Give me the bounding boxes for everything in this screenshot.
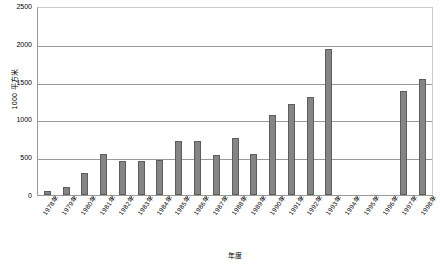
y-axis-tick-label: 2000 xyxy=(2,41,32,48)
x-axis-label-slot: 1978年 xyxy=(37,200,56,244)
bar-slot xyxy=(263,8,282,195)
bar-slot xyxy=(319,8,338,195)
x-axis-label-slot: 1991年 xyxy=(282,200,301,244)
bar xyxy=(100,154,107,195)
y-axis-tick-label: 0 xyxy=(2,192,32,199)
x-axis-label-slot: 1987年 xyxy=(207,200,226,244)
bar-slot xyxy=(151,8,170,195)
bar-slot xyxy=(395,8,414,195)
x-axis-label-slot: 1985年 xyxy=(169,200,188,244)
x-axis-label-slot: 1979年 xyxy=(56,200,75,244)
x-axis-label-slot: 1981年 xyxy=(94,200,113,244)
bar-slot xyxy=(413,8,432,195)
bar-slot xyxy=(132,8,151,195)
bar-slot xyxy=(207,8,226,195)
bar xyxy=(232,138,239,195)
bar xyxy=(250,154,257,195)
bar-slot xyxy=(113,8,132,195)
y-axis-tick-label: 1500 xyxy=(2,79,32,86)
bar xyxy=(400,91,407,195)
x-axis-label-slot: 1982年 xyxy=(112,200,131,244)
x-axis-label-slot: 1983年 xyxy=(131,200,150,244)
bar xyxy=(325,49,332,195)
bar-slot xyxy=(244,8,263,195)
bar-slot xyxy=(338,8,357,195)
bar-slot xyxy=(169,8,188,195)
bar xyxy=(119,161,126,195)
x-axis-label-slot: 1998年 xyxy=(414,200,433,244)
x-axis-label-slot: 1994年 xyxy=(339,200,358,244)
bar-slot xyxy=(301,8,320,195)
bar xyxy=(63,187,70,195)
bar xyxy=(288,104,295,195)
x-axis-label-slot: 1993年 xyxy=(320,200,339,244)
bar-slot xyxy=(188,8,207,195)
y-axis-tick-label: 500 xyxy=(2,154,32,161)
bar-chart: 1000 平方米 25002000150010005000 1978年1979年… xyxy=(0,0,440,268)
bar-slot xyxy=(357,8,376,195)
bar xyxy=(269,115,276,195)
plot-area xyxy=(37,7,433,196)
x-axis-tick-labels: 1978年1979年1980年1981年1982年1983年1984年1985年… xyxy=(37,200,433,244)
x-axis-label-slot: 1997年 xyxy=(395,200,414,244)
x-axis-label-slot: 1986年 xyxy=(188,200,207,244)
bar xyxy=(175,141,182,195)
y-axis-tick-label: 2500 xyxy=(2,3,32,10)
bar-slot xyxy=(376,8,395,195)
x-axis-label-slot: 1992年 xyxy=(301,200,320,244)
y-axis-tick-label: 1000 xyxy=(2,116,32,123)
bar xyxy=(156,160,163,195)
bar xyxy=(138,161,145,195)
x-axis-label-slot: 1988年 xyxy=(226,200,245,244)
bar xyxy=(307,97,314,195)
bar-slot xyxy=(226,8,245,195)
bar xyxy=(81,173,88,195)
bar-slot xyxy=(76,8,95,195)
bar-slot xyxy=(38,8,57,195)
bar-slot xyxy=(94,8,113,195)
bar-slot xyxy=(57,8,76,195)
bar xyxy=(213,155,220,195)
x-axis-label-slot: 1989年 xyxy=(244,200,263,244)
x-axis-label-slot: 1990年 xyxy=(263,200,282,244)
x-axis-label-slot: 1996年 xyxy=(376,200,395,244)
bar-series xyxy=(38,8,432,195)
bar xyxy=(194,141,201,195)
x-axis-label-slot: 1995年 xyxy=(358,200,377,244)
x-axis-label-slot: 1980年 xyxy=(75,200,94,244)
x-axis-label-slot: 1984年 xyxy=(150,200,169,244)
bar xyxy=(419,79,426,195)
bar-slot xyxy=(282,8,301,195)
x-axis-title: 年度 xyxy=(37,250,433,260)
